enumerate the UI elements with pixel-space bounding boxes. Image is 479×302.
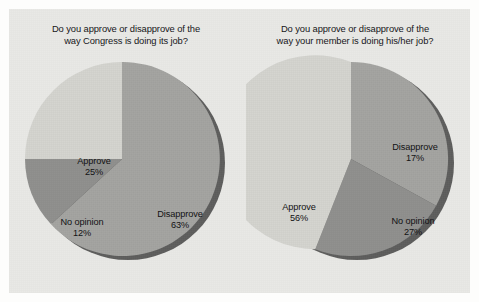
pie-slice-congress-approve [25,62,122,159]
pie-label-congress-no-opinion-pct: 12% [39,228,125,239]
pie-label-congress-no-opinion: No opinion 12% [39,217,125,239]
chart-title-congress-line2: way Congress is doing its job? [64,35,188,46]
chart-congress-approval: Do you approve or disapprove of the way … [11,9,241,293]
chart-member-approval: Do you approve or disapprove of the way … [240,9,470,293]
pie-label-congress-no-opinion-text: No opinion [61,217,104,227]
pie-member: Disapprove 17% No opinion 27% Approve 56… [246,54,464,266]
pie-label-congress-disapprove-text: Disapprove [157,209,202,219]
figure-panel: Do you approve or disapprove of the way … [9,9,470,293]
pie-label-member-no-opinion-pct: 27% [370,227,456,238]
pie-label-member-approve-text: Approve [282,202,316,212]
pie-label-member-no-opinion: No opinion 27% [370,216,456,238]
pie-label-congress-disapprove: Disapprove 63% [137,209,223,231]
pie-label-member-disapprove: Disapprove 17% [372,142,458,164]
pie-label-member-no-opinion-text: No opinion [392,216,435,226]
pie-label-member-disapprove-pct: 17% [372,153,458,164]
chart-title-member: Do you approve or disapprove of the way … [248,23,462,48]
chart-title-congress: Do you approve or disapprove of the way … [19,23,233,48]
chart-title-congress-line1: Do you approve or disapprove of the [52,23,200,34]
chart-title-member-line1: Do you approve or disapprove of the [281,23,429,34]
pie-label-congress-approve-pct: 25% [55,167,133,178]
pie-label-member-approve: Approve 56% [260,202,338,224]
pie-label-member-disapprove-text: Disapprove [392,142,437,152]
pie-label-congress-approve-text: Approve [77,156,111,166]
pie-label-member-approve-pct: 56% [260,213,338,224]
pie-chart-figure: Do you approve or disapprove of the way … [0,0,479,302]
pie-label-congress-disapprove-pct: 63% [137,220,223,231]
pie-label-congress-approve: Approve 25% [55,156,133,178]
chart-title-member-line2: way your member is doing his/her job? [277,35,434,46]
pie-congress: Approve 25% No opinion 12% Disapprove 63… [17,54,235,266]
